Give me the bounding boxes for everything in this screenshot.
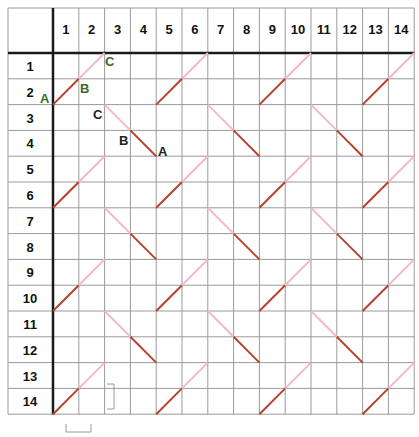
- column-label: 4: [140, 22, 148, 37]
- row-label: 1: [26, 59, 33, 74]
- column-label: 9: [269, 22, 276, 37]
- stitch-dark-segment: [337, 234, 363, 260]
- point-label-b: B: [119, 133, 128, 148]
- stitch-light-segment: [105, 311, 131, 337]
- stitch-dark-segment: [363, 285, 389, 311]
- row-label: 3: [26, 111, 33, 126]
- stitch-dark-segment: [337, 130, 363, 156]
- stitch-dark-segment: [363, 388, 389, 414]
- row-label: 10: [23, 291, 37, 306]
- stitch-light-segment: [182, 156, 208, 182]
- stitch-dark-segment: [259, 285, 285, 311]
- column-label: 5: [165, 22, 172, 37]
- stitch-light-segment: [182, 53, 208, 79]
- stitch-dark-segment: [156, 285, 182, 311]
- row-label: 6: [26, 188, 33, 203]
- stitch-light-segment: [208, 105, 234, 131]
- stitch-dark-segment: [130, 234, 156, 260]
- stitch-light-segment: [182, 363, 208, 389]
- stitch-dark-segment: [156, 79, 182, 105]
- row-label: 9: [26, 265, 33, 280]
- stitch-dark-segment: [53, 79, 79, 105]
- stitch-light-segment: [285, 259, 311, 285]
- point-label-b: B: [80, 81, 89, 96]
- stitch-light-segment: [388, 259, 414, 285]
- stitch-light-segment: [79, 259, 105, 285]
- stitch-dark-segment: [259, 79, 285, 105]
- stitch-light-segment: [388, 156, 414, 182]
- stitch-dark-segment: [156, 388, 182, 414]
- stitch-light-segment: [79, 53, 105, 79]
- row-label: 7: [26, 214, 33, 229]
- stitch-dark-segment: [363, 182, 389, 208]
- vertical-bracket-mark: [107, 384, 114, 409]
- stitch-light-segment: [105, 105, 131, 131]
- row-label: 2: [26, 85, 33, 100]
- stitch-dark-segment: [363, 79, 389, 105]
- stitch-dark-segment: [53, 182, 79, 208]
- point-labels: CBACBA: [40, 54, 168, 159]
- stitch-light-segment: [285, 156, 311, 182]
- column-label: 14: [394, 22, 409, 37]
- stitch-dark-segment: [337, 337, 363, 363]
- stitch-light-segment: [208, 208, 234, 234]
- column-header: 1234567891011121314: [62, 22, 409, 37]
- stitch-dark-segment: [259, 388, 285, 414]
- stitch-light-segment: [79, 156, 105, 182]
- stitch-light-segment: [311, 208, 337, 234]
- stitch-dark-segment: [259, 182, 285, 208]
- stitch-dark-segment: [234, 234, 260, 260]
- column-label: 2: [88, 22, 95, 37]
- column-label: 6: [191, 22, 198, 37]
- row-label: 5: [26, 162, 33, 177]
- row-label: 4: [26, 136, 34, 151]
- row-label: 13: [23, 369, 37, 384]
- column-label: 10: [291, 22, 305, 37]
- stitch-dark-segment: [53, 285, 79, 311]
- point-label-c: C: [105, 54, 115, 69]
- column-label: 13: [368, 22, 382, 37]
- column-label: 12: [342, 22, 356, 37]
- point-label-a: A: [158, 144, 168, 159]
- stitch-light-segment: [388, 363, 414, 389]
- stitch-light-segment: [285, 363, 311, 389]
- stitch-light-segment: [105, 208, 131, 234]
- stitch-light-segment: [285, 53, 311, 79]
- stitch-dark-segment: [156, 182, 182, 208]
- bracket-marks: [66, 384, 114, 432]
- stitch-chart: 1234567891011121314 1234567891011121314 …: [0, 0, 419, 437]
- column-label: 11: [317, 22, 331, 37]
- stitch-light-segment: [311, 105, 337, 131]
- horizontal-bracket-mark: [66, 424, 91, 432]
- column-label: 7: [217, 22, 224, 37]
- stitch-dark-segment: [53, 388, 79, 414]
- stitch-dark-segment: [130, 337, 156, 363]
- row-label: 12: [23, 343, 37, 358]
- stitch-light-segment: [182, 259, 208, 285]
- column-label: 8: [243, 22, 250, 37]
- row-label: 11: [23, 317, 37, 332]
- stitch-dark-segment: [130, 130, 156, 156]
- stitch-light-segment: [388, 53, 414, 79]
- stitch-dark-segment: [234, 337, 260, 363]
- stitch-dark-segment: [234, 130, 260, 156]
- row-label: 14: [23, 394, 38, 409]
- row-label: 8: [26, 240, 33, 255]
- stitch-light-segment: [208, 311, 234, 337]
- stitch-light-segment: [311, 311, 337, 337]
- column-label: 1: [62, 22, 69, 37]
- stitch-light-segment: [79, 363, 105, 389]
- column-label: 3: [114, 22, 121, 37]
- point-label-c: C: [93, 107, 103, 122]
- point-label-a: A: [40, 91, 50, 106]
